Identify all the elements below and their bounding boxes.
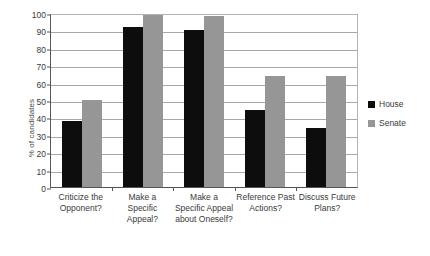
y-tick-label: 50	[37, 97, 46, 107]
x-category-label: Make a Specific Appeal?	[112, 192, 174, 225]
y-tick-label: 100	[32, 10, 46, 20]
legend-item-house: House	[368, 99, 406, 109]
y-tick-label: 0	[41, 184, 46, 194]
bar-group	[296, 15, 357, 187]
bar-house[interactable]	[123, 27, 143, 187]
bar-groups	[51, 15, 357, 187]
x-category-label: Make a Specific Appeal about Oneself?	[173, 192, 235, 225]
x-axis-labels: Criticize the Opponent? Make a Specific …	[50, 192, 358, 225]
bar-house[interactable]	[306, 128, 326, 187]
y-tick-label: 90	[37, 27, 46, 37]
y-tick-label: 70	[37, 62, 46, 72]
bar-senate[interactable]	[265, 76, 285, 187]
y-tick-label: 60	[37, 80, 46, 90]
y-axis-title: % of candidates	[27, 99, 36, 157]
y-tick-label: 80	[37, 45, 46, 55]
legend-label-senate: Senate	[379, 118, 406, 128]
bar-group	[235, 15, 296, 187]
x-category-label: Criticize the Opponent?	[50, 192, 112, 225]
y-tick-label: 40	[37, 114, 46, 124]
bar-house[interactable]	[184, 30, 204, 187]
bar-senate[interactable]	[326, 76, 346, 187]
x-category-label: Reference Past Actions?	[235, 192, 297, 225]
legend-swatch-icon	[368, 120, 375, 127]
bar-senate[interactable]	[204, 16, 224, 187]
bar-senate[interactable]	[143, 15, 163, 187]
plot-area: 0102030405060708090100	[50, 14, 358, 188]
bar-senate[interactable]	[82, 100, 102, 187]
legend-item-senate: Senate	[368, 118, 406, 128]
x-category-label: Discuss Future Plans?	[296, 192, 358, 225]
bar-group	[112, 15, 173, 187]
bar-group	[51, 15, 112, 187]
bar-house[interactable]	[245, 110, 265, 187]
legend-label-house: House	[379, 99, 404, 109]
y-tick-mark	[47, 189, 51, 190]
legend-swatch-icon	[368, 101, 375, 108]
bar-group	[173, 15, 234, 187]
y-tick-label: 30	[37, 132, 46, 142]
bar-chart: % of candidates 0102030405060708090100 C…	[0, 0, 430, 256]
y-tick-label: 20	[37, 149, 46, 159]
chart-legend: House Senate	[368, 99, 406, 137]
bar-house[interactable]	[62, 121, 82, 187]
y-tick-label: 10	[37, 167, 46, 177]
